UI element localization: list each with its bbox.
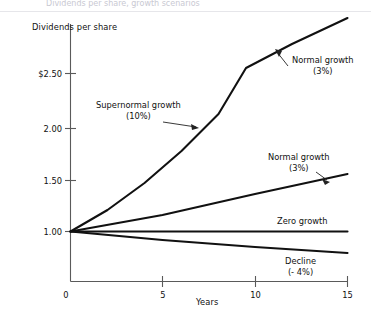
annotation-supernormal-line1: Supernormal growth (96, 100, 181, 111)
x-tick-label-10: 10 (246, 290, 265, 300)
y-tick-label-1.50: 1.50 (24, 176, 62, 186)
series-supernormal-growth (71, 18, 348, 232)
annotation-normal-growth-lower: Normal growth (3%) (268, 152, 330, 173)
annotation-supernormal-growth: Supernormal growth (10%) (96, 100, 181, 121)
y-tick-label-2.00: 2.00 (24, 124, 62, 134)
annotation-zero-growth: Zero growth (277, 216, 328, 227)
y-tick-label-1.00: 1.00 (24, 227, 62, 237)
y-tick-label-2.50: $2.50 (24, 69, 62, 79)
series-decline (71, 232, 348, 254)
annotation-decline-line1: Decline (285, 256, 316, 267)
annotation-zero-line1: Zero growth (277, 216, 328, 227)
annotation-normal-upper-line1: Normal growth (292, 55, 354, 66)
x-axis-title: Years (196, 297, 218, 308)
annotation-decline-line2: (- 4%) (285, 267, 316, 278)
x-tick-label-5: 5 (155, 290, 171, 300)
x-tick-label-0: 0 (58, 290, 74, 300)
y-axis-title: Dividends per share (32, 22, 117, 33)
annotation-supernormal-line2: (10%) (96, 111, 181, 122)
supernormal-leader-line (163, 122, 196, 127)
chart-figure: Dividends per share, growth scenarios (0, 0, 371, 321)
annotation-normal-lower-line1: Normal growth (268, 152, 330, 163)
annotation-normal-growth-upper: Normal growth (3%) (292, 55, 354, 76)
normal-lower-leader-arrow (322, 179, 330, 185)
x-tick-label-15: 15 (338, 290, 357, 300)
supernormal-leader-arrow (191, 124, 199, 130)
annotation-normal-upper-line2: (3%) (292, 66, 354, 77)
annotation-decline: Decline (- 4%) (285, 256, 316, 277)
annotation-normal-lower-line2: (3%) (268, 163, 330, 174)
